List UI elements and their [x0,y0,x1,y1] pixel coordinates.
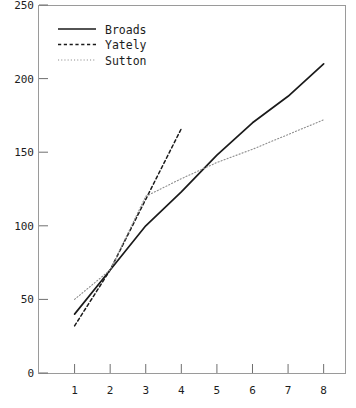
x-tick-label: 3 [142,384,149,397]
y-tick-label: 0 [27,367,34,380]
line-chart-canvas: 050100150200250 12345678 BroadsYatelySut… [0,0,356,408]
plot-frame [39,6,346,374]
x-tick-label: 8 [320,384,327,397]
x-axis-tick-labels: 12345678 [71,384,327,397]
y-axis-tick-labels: 050100150200250 [14,0,34,380]
y-tick-label: 200 [14,73,34,86]
x-tick-label: 7 [285,384,292,397]
x-tick-label: 6 [249,384,256,397]
x-tick-label: 1 [71,384,78,397]
y-tick-label: 250 [14,0,34,12]
y-tick-label: 150 [14,146,34,159]
legend-label-yately: Yately [105,38,147,52]
legend-label-sutton: Sutton [105,54,147,68]
chart-figure: 050100150200250 12345678 BroadsYatelySut… [0,0,356,408]
x-tick-label: 5 [214,384,221,397]
legend-label-broads: Broads [105,23,147,37]
x-tick-label: 4 [178,384,185,397]
y-tick-label: 100 [14,220,34,233]
x-tick-label: 2 [107,384,114,397]
y-tick-label: 50 [21,293,34,306]
